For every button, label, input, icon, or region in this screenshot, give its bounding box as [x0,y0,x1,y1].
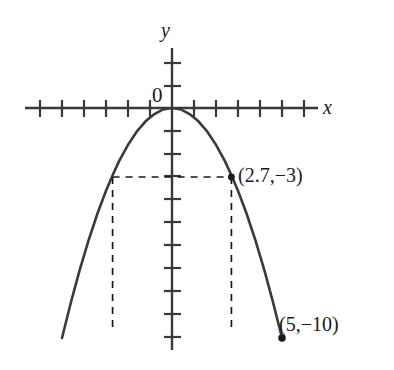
y-axis-label: y [161,20,170,40]
point-a-marker [228,174,235,181]
point-a-label: (2.7,−3) [238,165,303,185]
point-b-marker [278,334,286,342]
origin-label: 0 [152,85,163,106]
y-axis [164,48,181,350]
x-axis-label: x [323,97,332,117]
point-b-label: (5,−10) [279,314,339,334]
parabola-figure: y x 0 (2.7,−3) (5,−10) [0,0,394,370]
